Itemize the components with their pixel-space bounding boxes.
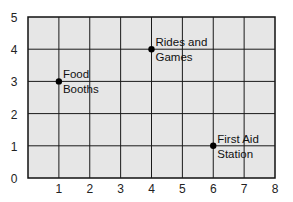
point-label: Station	[217, 148, 253, 160]
x-tick-label: 4	[148, 182, 155, 196]
x-tick-label: 2	[86, 182, 93, 196]
point-marker	[210, 143, 216, 149]
point-label: Games	[156, 51, 193, 63]
y-tick-label: 1	[11, 140, 18, 154]
point-marker	[56, 78, 62, 84]
x-tick-label: 5	[179, 182, 186, 196]
point-label: Food	[63, 68, 89, 80]
point-label: Booths	[63, 83, 99, 95]
y-tick-label: 2	[11, 108, 18, 122]
x-tick-label: 6	[210, 182, 217, 196]
x-tick-label: 8	[272, 182, 279, 196]
point-label: Rides and	[156, 36, 208, 48]
y-axis-ticks: 012345	[11, 11, 18, 186]
y-tick-label: 5	[11, 11, 18, 25]
y-tick-label: 4	[11, 43, 18, 57]
x-tick-label: 1	[56, 182, 63, 196]
point-label: First Aid	[217, 133, 259, 145]
x-tick-label: 3	[117, 182, 124, 196]
x-tick-label: 7	[241, 182, 248, 196]
y-tick-label: 3	[11, 75, 18, 89]
y-tick-label: 0	[11, 172, 18, 186]
coordinate-grid-chart: 012345 12345678 FoodBoothsRides andGames…	[0, 0, 293, 202]
point-marker	[148, 46, 154, 52]
x-axis-ticks: 12345678	[56, 182, 279, 196]
